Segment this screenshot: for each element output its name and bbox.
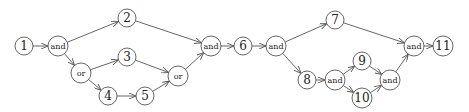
edge-n3-o2 — [135, 60, 168, 72]
node-label: and — [406, 42, 421, 51]
gate-node-a1: and — [48, 36, 68, 56]
task-node-n4: 4 — [99, 87, 117, 105]
task-node-n6: 6 — [234, 37, 252, 55]
task-node-n10: 10 — [352, 88, 372, 108]
task-node-n11: 11 — [433, 36, 453, 56]
gate-node-a6: and — [404, 36, 424, 56]
edges — [33, 21, 433, 96]
node-label: and — [203, 42, 218, 51]
node-label: and — [268, 42, 283, 51]
edge-a4-n9 — [343, 66, 354, 74]
node-label: and — [50, 42, 65, 51]
edge-a1-o1 — [64, 54, 74, 66]
edge-o1-n4 — [89, 79, 102, 90]
task-node-n5: 5 — [136, 87, 154, 105]
node-label: 7 — [331, 13, 339, 27]
node-label: 5 — [141, 89, 149, 103]
task-node-n9: 9 — [353, 52, 371, 70]
edge-o2-a2 — [185, 53, 203, 70]
node-label: and — [327, 76, 342, 85]
edge-o1-n3 — [90, 60, 118, 70]
nodes: 1andor2345orand6and78and910andand11 — [15, 9, 453, 108]
edge-n10-a5 — [370, 85, 381, 92]
edge-a5-a6 — [396, 54, 408, 72]
node-label: 4 — [104, 89, 112, 103]
gate-node-a2: and — [201, 36, 221, 56]
task-node-n2: 2 — [118, 9, 136, 27]
task-node-n7: 7 — [326, 11, 344, 29]
node-label: and — [382, 76, 397, 85]
edge-n7-a6 — [344, 23, 405, 43]
edge-n5-o2 — [153, 81, 170, 91]
node-label: 8 — [303, 73, 311, 87]
node-label: 2 — [123, 11, 131, 25]
edge-n9-a5 — [369, 66, 381, 74]
node-label: 1 — [20, 39, 28, 53]
node-label: 11 — [435, 39, 450, 53]
gate-node-a4: and — [325, 70, 345, 90]
edge-a3-n8 — [283, 53, 301, 73]
node-label: or — [77, 69, 86, 78]
edge-n2-a2 — [136, 21, 202, 43]
task-node-n1: 1 — [15, 37, 33, 55]
node-label: or — [174, 72, 183, 81]
node-label: 6 — [239, 39, 247, 53]
task-node-n8: 8 — [298, 71, 316, 89]
edge-a3-n7 — [285, 24, 327, 42]
gate-node-a5: and — [380, 70, 400, 90]
gate-node-a3: and — [266, 36, 286, 56]
gate-node-o1: or — [71, 63, 91, 83]
workflow-diagram: 1andor2345orand6and78and910andand11 — [0, 0, 469, 112]
edge-a1-n2 — [67, 21, 118, 42]
node-label: 9 — [358, 54, 366, 68]
node-label: 10 — [354, 91, 369, 105]
task-node-n3: 3 — [118, 48, 136, 66]
gate-node-o2: or — [168, 66, 188, 86]
node-label: 3 — [123, 50, 131, 64]
edge-a4-n10 — [343, 86, 353, 93]
